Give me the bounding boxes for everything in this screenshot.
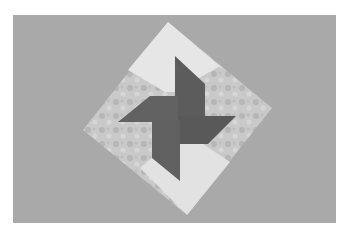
quilt-block-illustration [0, 0, 346, 230]
